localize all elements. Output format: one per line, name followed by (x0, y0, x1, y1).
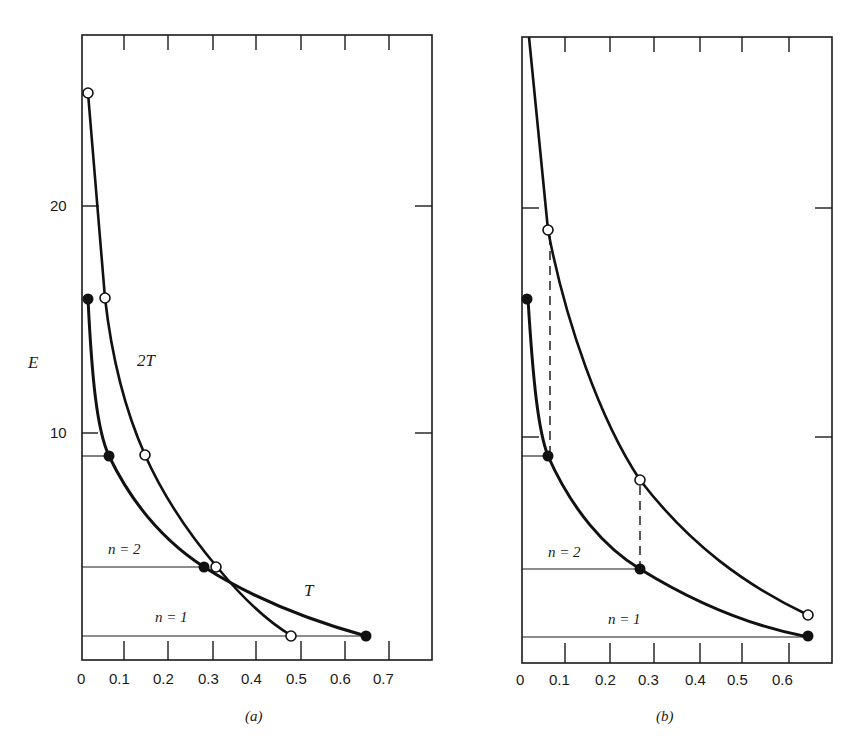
svg-text:0.5: 0.5 (727, 671, 748, 688)
panel-a-y-ticks (82, 206, 432, 433)
panel-a-bottom-ticks (124, 641, 389, 660)
panel-a-x-tick-labels: 0 0.1 0.2 0.3 0.4 0.5 0.6 0.7 (77, 670, 394, 687)
curve-upper (529, 37, 808, 615)
svg-text:0.3: 0.3 (198, 670, 219, 687)
figure: 20 10 E 2T T n = 2 n = 1 0 0.1 0.2 0.3 0… (0, 0, 865, 749)
svg-text:0.7: 0.7 (373, 670, 394, 687)
panel-b: n = 2 n = 1 0 0.1 0.2 0.3 0.4 0.5 0.6 (b… (516, 37, 832, 725)
svg-text:0.4: 0.4 (685, 671, 706, 688)
panel-a-filled-markers (83, 294, 372, 642)
svg-text:0.1: 0.1 (549, 671, 570, 688)
svg-text:0.1: 0.1 (109, 670, 130, 687)
svg-text:0.3: 0.3 (638, 671, 659, 688)
svg-text:0.2: 0.2 (153, 670, 174, 687)
y-axis-label: E (27, 353, 39, 372)
curve-lower (528, 299, 808, 637)
svg-text:0.5: 0.5 (286, 670, 307, 687)
panel-b-filled-markers (522, 294, 814, 642)
panel-b-y-ticks (522, 208, 832, 437)
label-n2-a: n = 2 (108, 541, 141, 557)
curve-t (88, 299, 366, 636)
panel-b-bottom-ticks (565, 643, 789, 663)
label-n1-b: n = 1 (608, 611, 641, 627)
svg-text:0.6: 0.6 (772, 671, 793, 688)
panel-b-open-markers (543, 225, 813, 620)
label-n2-b: n = 2 (548, 544, 581, 560)
panel-b-dashed-lines (550, 236, 640, 565)
panel-a-top-ticks (124, 35, 389, 50)
svg-text:0.2: 0.2 (595, 671, 616, 688)
y-tick-20: 20 (50, 197, 67, 214)
panel-b-caption: (b) (656, 708, 674, 725)
panel-a-frame (82, 35, 432, 660)
panel-b-top-ticks (565, 37, 789, 52)
y-tick-10: 10 (50, 424, 67, 441)
svg-text:0: 0 (77, 670, 85, 687)
svg-text:0: 0 (516, 671, 524, 688)
panel-b-x-tick-labels: 0 0.1 0.2 0.3 0.4 0.5 0.6 (516, 671, 793, 688)
label-2t: 2T (137, 351, 157, 370)
panel-a-caption: (a) (245, 708, 263, 725)
svg-text:0.4: 0.4 (241, 670, 262, 687)
label-n1-a: n = 1 (155, 609, 188, 625)
label-t: T (304, 581, 315, 600)
panel-a: 20 10 E 2T T n = 2 n = 1 0 0.1 0.2 0.3 0… (27, 35, 432, 725)
svg-text:0.6: 0.6 (330, 670, 351, 687)
